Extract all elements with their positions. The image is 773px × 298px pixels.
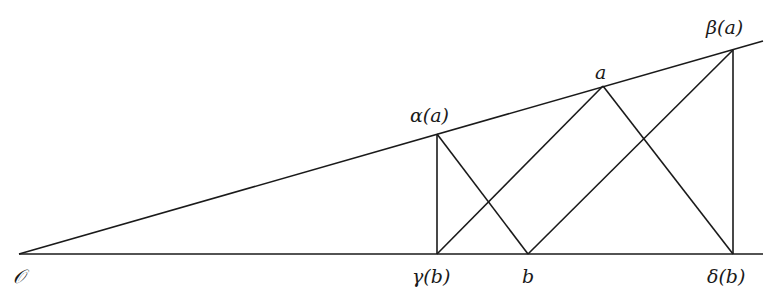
label-alpha-a: α(a) [410, 104, 449, 126]
segment-a-delta [603, 86, 733, 254]
segment-alpha-b [437, 134, 528, 254]
label-a: a [595, 61, 606, 83]
diagram-canvas: 𝒪 α(a) γ(b) b a β(a) δ(b) [0, 0, 773, 298]
label-delta-b: δ(b) [707, 265, 745, 287]
segment-b-beta [528, 50, 733, 254]
label-b: b [522, 265, 534, 287]
label-origin: 𝒪 [13, 265, 30, 287]
label-beta-a: β(a) [705, 16, 743, 38]
label-gamma-b: γ(b) [412, 265, 450, 287]
